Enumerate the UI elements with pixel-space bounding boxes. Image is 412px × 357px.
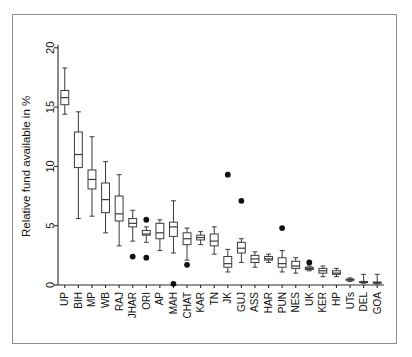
box-har: [265, 254, 273, 262]
x-tick-label-uts: UTs: [345, 292, 356, 309]
x-tick-label-ker: KER: [317, 292, 328, 313]
box-iqr: [170, 222, 178, 236]
box-raj: [115, 175, 123, 246]
box-ori: [142, 217, 150, 261]
box-goa: [373, 274, 381, 283]
box-iqr: [74, 132, 82, 168]
x-tick-label-wb: WB: [100, 292, 111, 308]
box-hp: [333, 268, 341, 276]
x-tick-label-raj: RAJ: [114, 292, 125, 311]
outlier-point: [279, 225, 285, 231]
box-jhar: [129, 210, 137, 259]
x-tick-label-jk: JK: [222, 292, 233, 304]
x-tick-label-ori: ORI: [141, 292, 152, 310]
box-ap: [156, 220, 164, 251]
y-tick-label: 15: [44, 101, 56, 113]
x-tick-label-del: DEL: [358, 292, 369, 312]
x-tick-label-ass: ASS: [249, 292, 260, 312]
x-tick-label-pun: PUN: [277, 292, 288, 313]
x-tick-label-guj: GUJ: [236, 292, 247, 312]
x-tick-label-mah: MAH: [168, 292, 179, 314]
x-tick-label-mp: MP: [86, 292, 97, 307]
y-tick-label: 10: [44, 160, 56, 172]
outlier-point: [238, 198, 244, 204]
box-iqr: [156, 223, 164, 238]
box-guj: [237, 198, 245, 263]
y-axis-title: Relative fund available in %: [20, 96, 32, 237]
outlier-point: [143, 217, 149, 223]
x-tick-label-chat: CHAT: [182, 292, 193, 318]
box-iqr: [292, 261, 300, 268]
outlier-point: [130, 254, 136, 260]
box-chat: [183, 228, 191, 268]
box-del: [360, 274, 368, 283]
x-tick-label-nes: NES: [290, 292, 301, 313]
box-up: [61, 68, 69, 114]
x-axis: UPBIHMPWBRAJJHARORIAPMAHCHATKARTNJKGUJAS…: [58, 285, 384, 318]
box-tn: [210, 227, 218, 254]
outlier-point: [171, 281, 177, 287]
box-uts: [346, 278, 354, 282]
y-tick-label: 0: [44, 282, 56, 288]
box-series: [61, 68, 381, 287]
box-ass: [251, 252, 259, 267]
box-ker: [319, 266, 327, 277]
x-tick-label-hp: HP: [331, 292, 342, 306]
box-iqr: [102, 183, 110, 213]
y-axis-title-text: Relative fund available in %: [20, 96, 32, 237]
box-mp: [88, 137, 96, 216]
box-mah: [170, 201, 178, 287]
x-tick-label-bih: BIH: [73, 292, 84, 309]
box-uk: [305, 260, 313, 271]
box-nes: [292, 258, 300, 273]
x-tick-label-up: UP: [59, 292, 70, 306]
outlier-point: [306, 260, 312, 266]
outlier-point: [225, 172, 231, 178]
boxplot-chart: 05101520 UPBIHMPWBRAJJHARORIAPMAHCHATKAR…: [0, 0, 412, 357]
outlier-point: [184, 262, 190, 268]
outlier-point: [143, 255, 149, 261]
box-bih: [74, 112, 82, 219]
box-kar: [197, 232, 205, 245]
x-tick-label-tn: TN: [209, 292, 220, 305]
x-tick-label-ap: AP: [154, 292, 165, 306]
x-tick-label-har: HAR: [263, 292, 274, 313]
y-tick-label: 5: [44, 223, 56, 229]
box-iqr: [224, 257, 232, 268]
box-iqr: [115, 196, 123, 221]
figure-canvas: 05101520 UPBIHMPWBRAJJHARORIAPMAHCHATKAR…: [0, 0, 412, 357]
x-tick-label-jhar: JHAR: [127, 292, 138, 318]
box-iqr: [278, 258, 286, 267]
box-pun: [278, 225, 286, 272]
box-wb: [102, 162, 110, 233]
box-jk: [224, 172, 232, 272]
x-tick-label-uk: UK: [304, 292, 315, 306]
box-iqr: [210, 234, 218, 246]
y-tick-label: 20: [44, 42, 56, 54]
x-tick-label-kar: KAR: [195, 292, 206, 313]
y-axis: 05101520: [44, 42, 58, 288]
x-tick-label-goa: GOA: [372, 292, 383, 315]
